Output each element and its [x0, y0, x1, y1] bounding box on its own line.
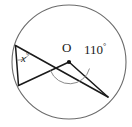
chord-topleft-bottomleft	[16, 46, 19, 86]
central-angle-value: 110	[84, 42, 103, 57]
inscribed-angle-label: x°	[21, 52, 29, 64]
radius-center-to-right	[69, 62, 108, 97]
inscribed-angle-degree-symbol: °	[26, 51, 29, 58]
geometry-canvas	[0, 0, 132, 127]
central-angle-label: 110°	[84, 43, 106, 56]
geometry-figure: O 110° x°	[0, 0, 132, 127]
center-point-dot	[67, 60, 71, 64]
central-angle-degree-symbol: °	[103, 42, 106, 51]
center-label-O: O	[62, 41, 71, 54]
